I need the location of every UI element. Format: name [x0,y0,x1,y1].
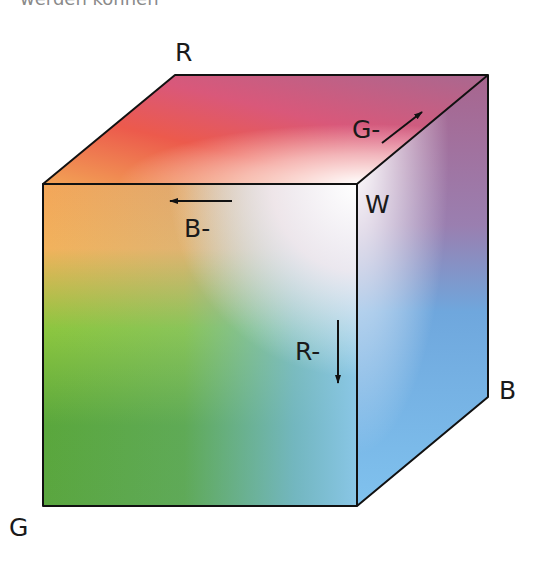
label-white-corner: W [365,190,390,219]
label-blue-minus: B- [184,214,210,243]
label-red-minus: R- [295,337,320,366]
label-green-minus: G- [352,115,380,144]
label-red-corner: R [175,38,192,67]
label-blue-corner: B [499,376,516,405]
label-green-corner: G [9,513,28,542]
rgb-color-cube: R G B W B- R- G- [0,0,542,568]
